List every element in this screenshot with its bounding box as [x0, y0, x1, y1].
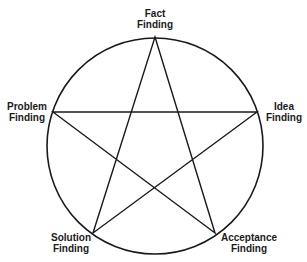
problem-line1: Problem — [4, 101, 50, 112]
outer-circle — [47, 38, 263, 254]
solution-line2: Finding — [48, 243, 94, 254]
node-label-solution: Solution Finding — [48, 232, 94, 254]
idea-line2: Finding — [262, 112, 306, 123]
node-label-fact: Fact Finding — [130, 8, 180, 30]
node-label-acceptance: Acceptance Finding — [218, 232, 280, 254]
fact-line2: Finding — [130, 19, 180, 30]
solution-line1: Solution — [48, 232, 94, 243]
node-label-idea: Idea Finding — [262, 101, 306, 123]
acceptance-line2: Finding — [218, 243, 280, 254]
fact-line1: Fact — [130, 8, 180, 19]
idea-line1: Idea — [262, 101, 306, 112]
acceptance-line1: Acceptance — [218, 232, 280, 243]
pentagram-diagram — [0, 0, 307, 262]
star-polygon — [53, 37, 257, 233]
node-label-problem: Problem Finding — [4, 101, 50, 123]
problem-line2: Finding — [4, 112, 50, 123]
